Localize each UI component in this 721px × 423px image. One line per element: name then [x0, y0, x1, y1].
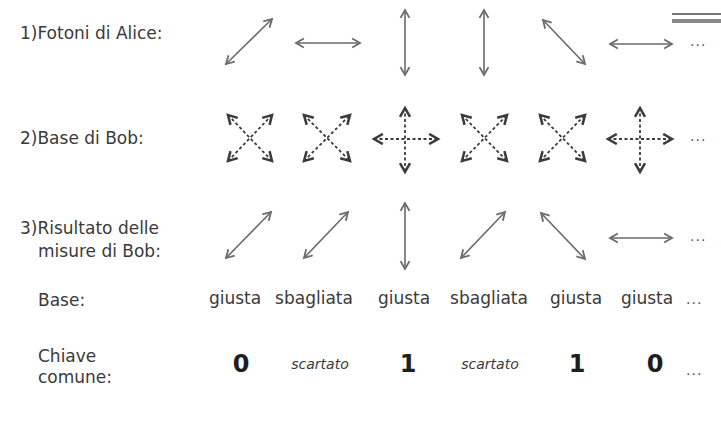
key-discarded-4: scartato: [461, 356, 518, 372]
bob-result-2-diagonal-icon: [304, 212, 348, 258]
bob-result-1-diagonal-icon: [226, 212, 271, 258]
basis-check-2: sbagliata: [275, 288, 353, 308]
bob-basis-6-rectilinear-icon: [608, 108, 672, 172]
bob-basis-5-diagonal-icon: [540, 115, 585, 161]
basis-check-3: giusta: [378, 288, 430, 308]
alice-photon-1-diagonal-icon: [226, 19, 272, 64]
key-bit-1: 0: [233, 350, 250, 378]
bob-basis-ellipsis: ...: [690, 128, 706, 144]
basis-check-ellipsis: ...: [686, 291, 702, 307]
polarization-diagram: [0, 0, 721, 423]
bob-results-ellipsis: ...: [690, 228, 706, 244]
basis-check-6: giusta: [621, 288, 673, 308]
shared-key-ellipsis: ...: [686, 362, 702, 378]
basis-check-1: giusta: [209, 288, 261, 308]
bob-result-5-diagonal-icon: [541, 213, 585, 259]
alice-photon-5-diagonal-icon: [543, 20, 585, 64]
key-discarded-2: scartato: [291, 356, 348, 372]
basis-check-4: sbagliata: [450, 288, 528, 308]
bob-basis-2-diagonal-icon: [304, 115, 350, 161]
key-bit-6: 0: [647, 350, 664, 378]
bob-result-4-diagonal-icon: [461, 212, 505, 258]
basis-check-5: giusta: [550, 288, 602, 308]
bob-basis-3-rectilinear-icon: [374, 108, 438, 172]
key-bit-5: 1: [569, 350, 586, 378]
key-bit-3: 1: [400, 350, 417, 378]
alice-ellipsis: ...: [690, 33, 706, 49]
bob-basis-1-diagonal-icon: [228, 115, 272, 161]
bob-basis-4-diagonal-icon: [462, 115, 507, 161]
